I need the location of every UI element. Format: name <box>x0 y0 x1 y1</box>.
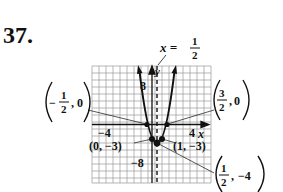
svg-text:1: 1 <box>221 162 227 174</box>
symmetry-label-lhs: x = <box>159 40 177 55</box>
point-label-0-neg3: (0, −3) <box>89 139 122 153</box>
svg-text:1: 1 <box>61 89 67 101</box>
right-intercept-label: 3 2 , 0 <box>214 80 249 120</box>
point-label-1-neg3: (1, −3) <box>173 139 206 153</box>
y-axis-label: y <box>153 65 160 77</box>
svg-text:2: 2 <box>61 103 67 115</box>
svg-text:−4: −4 <box>238 169 251 183</box>
symmetry-label-den: 2 <box>192 49 198 61</box>
symmetry-label-num: 1 <box>192 35 198 47</box>
left-intercept-label: − 1 2 , 0 <box>46 82 90 122</box>
svg-text:0: 0 <box>77 96 83 110</box>
parabola-graph: y x 8 −8 −4 4 (0, −3) (1, −3) x = 1 2 − … <box>0 0 283 192</box>
tick-label-y-8: 8 <box>140 79 146 93</box>
axes <box>92 66 209 183</box>
vertex-label: 1 2 , −4 <box>216 156 264 192</box>
tick-label-y-neg8: −8 <box>131 156 144 170</box>
svg-text:,: , <box>229 94 232 108</box>
svg-text:2: 2 <box>221 176 227 188</box>
svg-text:,: , <box>231 169 234 183</box>
svg-text:−: − <box>49 96 56 110</box>
svg-text:0: 0 <box>234 94 240 108</box>
svg-text:2: 2 <box>219 101 225 113</box>
svg-text:3: 3 <box>219 87 225 99</box>
axis-of-symmetry-leader <box>158 55 166 65</box>
svg-text:,: , <box>71 96 74 110</box>
tick-label-x-neg4: −4 <box>98 126 111 140</box>
tick-label-x-4: 4 <box>189 126 195 140</box>
